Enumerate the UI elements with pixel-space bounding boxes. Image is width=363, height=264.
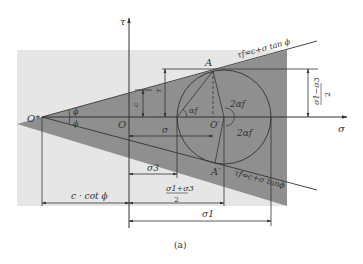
half-sum-num-label: σ1+σ3: [166, 184, 194, 193]
two-alpha-upper-label: 2αf: [229, 99, 247, 109]
sigma1-dim-label: σ1: [202, 209, 214, 219]
apex-label: O*: [27, 113, 40, 124]
A-prime-label: A′: [210, 166, 221, 177]
tau-axis-label: τ: [120, 16, 126, 27]
A-label: A: [204, 57, 212, 68]
sigma3-dim-label: σ3: [147, 163, 159, 173]
center-label: O′: [210, 120, 219, 130]
sigma-axis-label: σ: [338, 123, 346, 134]
tau-dim-label: τ: [154, 88, 163, 93]
mohr-coulomb-diagram: τ σ O* O O′ A A′ τf=c+σ tan ϕ τf=c+σ tan…: [0, 0, 363, 264]
origin-label: O: [118, 119, 126, 130]
c-cot-phi-label: c · cot ϕ: [71, 191, 108, 201]
half-diff-den-label: 2: [323, 92, 332, 97]
two-alpha-lower-label: 2αf: [236, 128, 254, 138]
phi-lower-label: ϕ: [73, 119, 79, 128]
half-diff-num-label: σ1−σ3: [312, 77, 321, 105]
phi-upper-label: ϕ: [73, 107, 79, 116]
sigma-dim-label: σ: [162, 125, 169, 135]
c-dim-label: c: [131, 102, 140, 107]
half-sum-den-label: 2: [174, 195, 179, 204]
figure-caption: (a): [174, 240, 186, 250]
